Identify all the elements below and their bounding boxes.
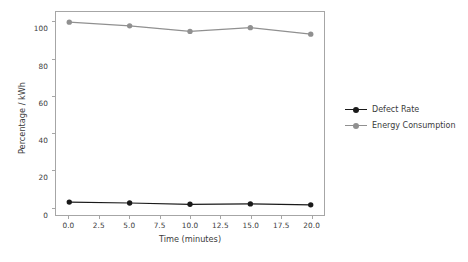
y-tick-label: 40 [39,136,49,145]
data-point [248,25,253,30]
series-defect-rate [67,199,314,207]
y-axis-label: Percentage / kWh [17,58,27,178]
x-tick-label: 12.5 [212,221,229,230]
series-canvas [56,12,324,215]
y-tick-mark [52,133,55,134]
y-tick-mark [52,59,55,60]
x-tick-label: 2.5 [93,221,105,230]
y-tick-mark [52,96,55,97]
data-point [67,199,72,204]
data-point [248,201,253,206]
x-tick-mark [220,216,221,219]
x-tick-label: 10.0 [182,221,199,230]
legend-entry[interactable]: Energy Consumption [345,120,456,131]
data-point [308,202,313,207]
x-tick-mark [190,216,191,219]
x-tick-mark [251,216,252,219]
x-tick-label: 17.5 [273,221,290,230]
x-tick-mark [281,216,282,219]
plot-area [55,11,325,216]
y-tick-mark [52,208,55,209]
y-tick-mark [52,21,55,22]
y-tick-label: 100 [34,24,48,33]
x-tick-mark [312,216,313,219]
x-tick-mark [160,216,161,219]
chart-figure: 0.02.55.07.510.012.515.017.520.0 0204060… [0,0,468,262]
y-tick-label-wrap: 0 [0,203,48,222]
y-tick-label: 60 [39,99,49,108]
legend-label: Energy Consumption [372,121,456,130]
y-tick-label: 80 [39,62,49,71]
data-point [187,29,192,34]
legend-marker-icon [345,105,367,114]
chart-legend: Defect RateEnergy Consumption [345,104,456,131]
legend-marker-icon [345,121,367,130]
legend-entry[interactable]: Defect Rate [345,104,456,115]
data-point [308,31,313,36]
x-tick-label: 20.0 [303,221,320,230]
x-tick-mark [99,216,100,219]
data-point [127,23,132,28]
x-tick-label: 5.0 [123,221,135,230]
x-tick-label: 7.5 [154,221,166,230]
data-point [187,202,192,207]
x-tick-mark [68,216,69,219]
y-tick-label: 0 [43,211,48,220]
x-axis-label: Time (minutes) [55,234,325,244]
data-point [127,200,132,205]
series-energy-consumption [67,19,314,36]
x-tick-mark [129,216,130,219]
data-point [67,19,72,24]
legend-label: Defect Rate [372,105,419,114]
plot-inner [56,12,324,215]
x-tick-label: 15.0 [242,221,259,230]
x-tick-label: 0.0 [62,221,74,230]
y-tick-label-wrap: 100 [0,16,48,35]
y-tick-mark [52,170,55,171]
y-tick-label: 20 [39,173,49,182]
